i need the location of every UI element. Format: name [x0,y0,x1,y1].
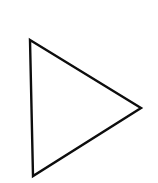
canvas-background [0,0,158,183]
drawing-canvas [0,0,158,183]
triangle-svg [0,0,158,183]
